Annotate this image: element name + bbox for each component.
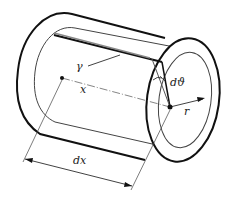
label-dx: dx [73, 154, 87, 167]
outer-cylinder-outline [17, 13, 165, 160]
generator-original [54, 35, 162, 62]
label-r: r [184, 105, 190, 118]
label-x: x [80, 83, 87, 96]
label-dtheta: dϑ [170, 76, 185, 89]
generator-deformed [54, 33, 150, 58]
dx-arrow-left [25, 158, 33, 163]
dx-extension-left [23, 80, 62, 162]
label-gamma: γ [76, 60, 83, 73]
dx-arrow-right [124, 182, 132, 187]
shaft-diagram: γ x dϑ r dx [0, 0, 226, 201]
gamma-leader [88, 55, 120, 66]
center-point-back [60, 76, 64, 80]
